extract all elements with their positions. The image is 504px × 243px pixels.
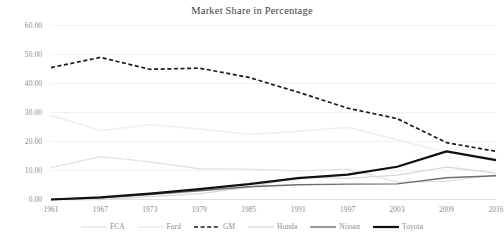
x-tick-label: 1997 — [340, 205, 355, 214]
legend-item-toyota[interactable]: Toyota — [373, 222, 423, 231]
x-tick-label: 1961 — [43, 205, 58, 214]
legend-label-ford: Ford — [167, 222, 181, 231]
legend-label-gm: GM — [223, 222, 235, 231]
legend-swatch-ford — [138, 223, 164, 231]
legend-label-honda: Honda — [277, 222, 297, 231]
x-tick-label: 1985 — [241, 205, 256, 214]
legend-item-gm[interactable]: GM — [194, 222, 235, 231]
y-tick-label: 40.00 — [8, 79, 42, 88]
y-tick-label: 20.00 — [8, 137, 42, 146]
market-share-line-chart: Market Share in Percentage 0.0010.0020.0… — [0, 0, 504, 243]
legend-swatch-honda — [248, 223, 274, 231]
chart-legend: FCAFordGMHondaNissanToyota — [0, 222, 504, 231]
y-tick-label: 30.00 — [8, 108, 42, 117]
legend-swatch-gm — [194, 223, 220, 231]
legend-swatch-nissan — [310, 223, 336, 231]
legend-item-fca[interactable]: FCA — [81, 222, 125, 231]
y-tick-label: 0.00 — [8, 195, 42, 204]
legend-label-fca: FCA — [110, 222, 125, 231]
x-tick-label: 1991 — [291, 205, 306, 214]
y-tick-label: 50.00 — [8, 50, 42, 59]
legend-swatch-fca — [81, 223, 107, 231]
series-line-honda — [51, 167, 496, 199]
legend-label-nissan: Nissan — [339, 222, 360, 231]
x-tick-label: 1979 — [192, 205, 207, 214]
legend-item-nissan[interactable]: Nissan — [310, 222, 360, 231]
x-tick-label: 2016 — [488, 205, 503, 214]
series-line-ford — [51, 115, 496, 158]
series-line-gm — [51, 57, 496, 151]
legend-label-toyota: Toyota — [402, 222, 423, 231]
x-tick-label: 2003 — [390, 205, 405, 214]
legend-item-ford[interactable]: Ford — [138, 222, 181, 231]
y-tick-label: 60.00 — [8, 21, 42, 30]
legend-item-honda[interactable]: Honda — [248, 222, 297, 231]
legend-swatch-toyota — [373, 223, 399, 231]
x-tick-label: 1967 — [93, 205, 108, 214]
x-tick-label: 2009 — [439, 205, 454, 214]
x-tick-label: 1973 — [142, 205, 157, 214]
y-tick-label: 10.00 — [8, 166, 42, 175]
